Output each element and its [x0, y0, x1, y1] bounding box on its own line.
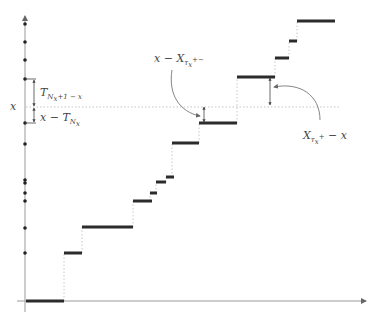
axis-point — [23, 251, 27, 255]
axis-point — [23, 191, 27, 195]
axis-point — [23, 181, 27, 185]
upper-gap-label: TNx+1 − x — [40, 86, 82, 103]
right-overshoot-label: Xτx+ − x — [302, 129, 348, 146]
right-overshoot-curve — [274, 86, 320, 120]
axis-point — [23, 199, 27, 203]
step-function-diagram: x TNx+1 − x x − TNx x − Xτx+− Xτx+ − x — [0, 0, 374, 320]
x-level-label: x — [10, 100, 17, 113]
axis-point — [23, 226, 27, 230]
lower-gap-label: x − TNx — [40, 111, 80, 128]
axis-point — [23, 40, 27, 44]
axis-point — [23, 142, 27, 146]
axis-point — [23, 22, 27, 26]
left-overshoot-label: x − Xτx+− — [154, 52, 204, 69]
left-overshoot-curve — [171, 70, 200, 116]
axis-point — [23, 58, 27, 62]
